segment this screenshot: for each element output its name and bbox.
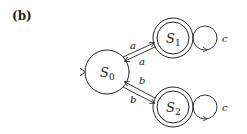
svg-text:c: c <box>222 33 228 44</box>
self-loop-s1: c <box>193 26 228 52</box>
svg-text:b: b <box>130 94 136 105</box>
initial-arrow-icon <box>80 68 85 76</box>
svg-text:a: a <box>130 40 136 51</box>
state-s1: S1 <box>153 18 193 58</box>
automaton-diagram: S0 S1 S2 a a b b c c <box>0 0 247 134</box>
svg-text:c: c <box>222 102 228 113</box>
svg-text:S0: S0 <box>100 65 115 82</box>
state-s0: S0 <box>85 50 129 94</box>
state-s2: S2 <box>153 87 193 127</box>
svg-text:a: a <box>139 56 145 67</box>
svg-text:b: b <box>139 75 145 86</box>
svg-text:S2: S2 <box>166 100 181 117</box>
self-loop-s2: c <box>193 95 228 121</box>
svg-text:S1: S1 <box>166 31 181 48</box>
